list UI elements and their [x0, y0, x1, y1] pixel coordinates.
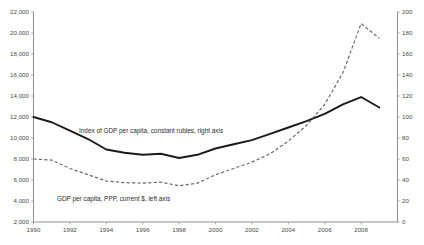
left-axis-tick-label: 14,000 — [10, 92, 29, 99]
right-axis-tick-label: 100 — [402, 113, 413, 120]
gdp-per-capita-chart: 2,0004,0006,0008,00010,00012,00014,00016… — [0, 0, 424, 245]
right-axis-tick-label: 80 — [402, 134, 409, 141]
left-axis-tick-label: 22,000 — [10, 8, 29, 15]
chart-background — [0, 0, 424, 245]
x-axis-tick-label: 2006 — [318, 226, 332, 233]
right-axis-tick-label: 160 — [402, 50, 413, 57]
right-axis-tick-label: 60 — [402, 155, 409, 162]
left-axis-tick-label: 6,000 — [14, 176, 30, 183]
x-axis-tick-label: 1996 — [136, 226, 150, 233]
x-axis-tick-label: 2008 — [354, 226, 368, 233]
x-axis-tick-label: 2000 — [209, 226, 223, 233]
chart-container: 2,0004,0006,0008,00010,00012,00014,00016… — [0, 0, 424, 245]
x-axis-tick-label: 2004 — [281, 226, 295, 233]
left-axis-tick-label: 4,000 — [14, 197, 30, 204]
right-axis-tick-label: 180 — [402, 29, 413, 36]
left-axis-tick-label: 2,000 — [14, 218, 30, 225]
right-axis-tick-label: 140 — [402, 71, 413, 78]
x-axis-tick-label: 1992 — [63, 226, 77, 233]
x-axis-tick-label: 1994 — [99, 226, 113, 233]
right-axis-tick-label: 200 — [402, 8, 413, 15]
left-axis-tick-label: 12,000 — [10, 113, 29, 120]
right-axis-tick-label: 40 — [402, 176, 409, 183]
x-axis-tick-label: 2002 — [245, 226, 259, 233]
right-axis-tick-label: 120 — [402, 92, 413, 99]
x-axis-tick-label: 1998 — [172, 226, 186, 233]
left-axis-tick-label: 16,000 — [10, 71, 29, 78]
right-axis-tick-label: 0 — [402, 218, 406, 225]
left-axis-tick-label: 20,000 — [10, 29, 29, 36]
left-axis-tick-label: 10,000 — [10, 134, 29, 141]
series-annotation: Index of GDP per capita, constant rubles… — [79, 127, 223, 135]
right-axis-tick-label: 20 — [402, 197, 409, 204]
x-axis-tick-label: 1990 — [27, 226, 41, 233]
left-axis-tick-label: 18,000 — [10, 50, 29, 57]
left-axis-tick-label: 8,000 — [14, 155, 30, 162]
series-annotation: GDP per capita, PPP, current $, left axi… — [57, 195, 170, 203]
